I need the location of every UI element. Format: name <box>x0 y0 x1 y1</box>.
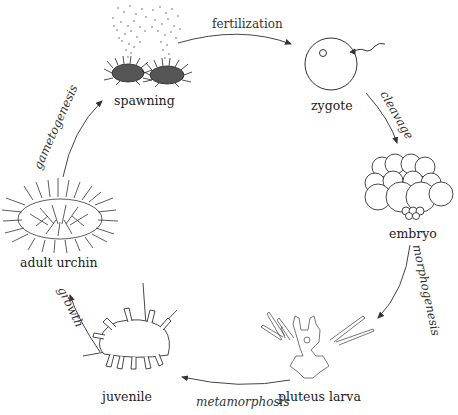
gamete-cloud <box>112 5 180 58</box>
zygote-illustration <box>305 38 385 90</box>
juvenile-illustration <box>83 283 177 369</box>
arrow-morphogenesis <box>378 245 410 318</box>
adult-urchin-illustration <box>2 178 118 253</box>
spawning-urchin-right <box>142 58 192 87</box>
stage-label-adult-urchin: adult urchin <box>20 255 98 270</box>
zygote-nucleus <box>320 50 327 57</box>
stage-label-embryo: embryo <box>389 226 437 241</box>
arrow-metamorphosis <box>182 377 290 384</box>
arrow-fertilization <box>178 34 291 44</box>
sperm-tail <box>352 43 385 52</box>
stage-label-juvenile: juvenile <box>102 389 152 404</box>
stage-label-spawning: spawning <box>114 93 175 108</box>
embryo-illustration <box>365 154 453 220</box>
life-cycle-diagram <box>0 0 458 415</box>
pluteus-larva-illustration <box>261 312 374 378</box>
process-label-fertilization: fertilization <box>212 17 283 31</box>
spawning-illustration <box>104 5 192 87</box>
zygote-cell <box>305 38 357 90</box>
stage-label-pluteus-larva: pluteus larva <box>278 389 361 404</box>
process-label-metamorphosis: metamorphosis <box>196 395 290 409</box>
stage-label-zygote: zygote <box>311 98 353 113</box>
spawning-urchin-left <box>104 56 152 85</box>
